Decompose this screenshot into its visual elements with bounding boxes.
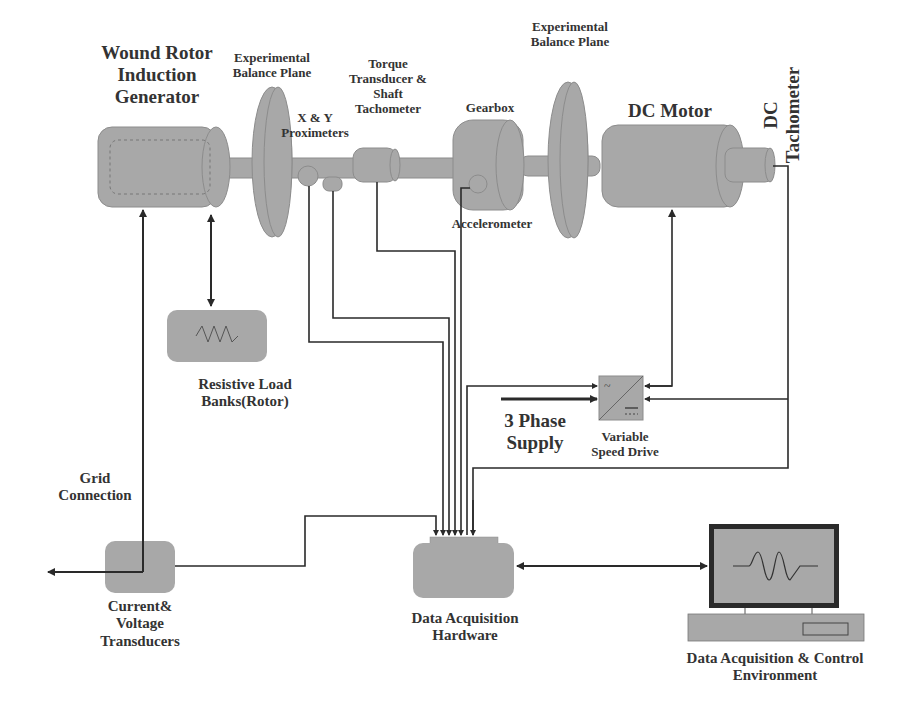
daq-to-vsd-wire: [467, 386, 597, 535]
proximeter-y-wire: [333, 191, 449, 535]
shaft-segment: [395, 158, 460, 178]
label-line: Variable: [580, 430, 670, 445]
balance-plane-2-label: Experimental Balance Plane: [520, 20, 620, 50]
daq-control-env-label: Data Acquisition & Control Environment: [660, 650, 890, 685]
label-line: Grid: [40, 470, 150, 487]
cv-to-daq-wire: [175, 516, 436, 566]
dc-tachometer-label: DC Tachometer: [760, 60, 804, 170]
label-line: Transducers: [85, 633, 195, 650]
label-line: Tachometer: [782, 60, 804, 170]
label-line: Shaft: [338, 87, 438, 102]
label-line: 3 Phase: [495, 410, 575, 432]
torque-transducer-label: Torque Transducer & Shaft Tachometer: [338, 57, 438, 117]
generator-label-line: Induction: [92, 64, 222, 86]
gearbox-icon: [453, 120, 524, 210]
torque-transducer-icon: [353, 148, 400, 182]
label-line: Proximeters: [270, 126, 360, 141]
label-line: Balance Plane: [222, 66, 322, 81]
balance-plane-2-icon: [548, 82, 588, 238]
generator-label: Wound Rotor Induction Generator: [92, 42, 222, 108]
current-voltage-transducers-box: [105, 541, 175, 593]
generator-label-line: Generator: [92, 86, 222, 108]
label-line: Current&: [85, 598, 195, 615]
label-line: Data Acquisition: [385, 610, 545, 627]
label-line: Hardware: [385, 627, 545, 644]
balance-plane-1-label: Experimental Balance Plane: [222, 51, 322, 81]
label-line: Experimental: [222, 51, 322, 66]
label-line: Voltage: [85, 615, 195, 632]
accelerometer-label: Accelerometer: [432, 217, 552, 232]
grid-connection-label: Grid Connection: [40, 470, 150, 505]
label-line: Banks(Rotor): [170, 393, 320, 410]
resistive-load-bank: [167, 310, 267, 362]
label-line: Data Acquisition & Control: [660, 650, 890, 667]
label-line: Balance Plane: [520, 35, 620, 50]
current-voltage-transducers-label: Current& Voltage Transducers: [85, 598, 195, 650]
resistive-load-label: Resistive Load Banks(Rotor): [170, 376, 320, 411]
proximeter-x-icon: [298, 166, 318, 186]
generator-icon: [98, 127, 230, 207]
balance-plane-1-icon: [252, 87, 292, 237]
label-line: Connection: [40, 487, 150, 504]
ac-dc-converter-icon: ~: [604, 379, 611, 393]
variable-speed-drive-label: Variable Speed Drive: [580, 430, 670, 460]
generator-label-line: Wound Rotor: [92, 42, 222, 64]
label-line: Tachometer: [338, 102, 438, 117]
label-line: Transducer &: [338, 72, 438, 87]
daq-hardware: [413, 537, 514, 598]
three-phase-supply-label: 3 Phase Supply: [495, 410, 575, 454]
daq-control-computer: [688, 524, 864, 641]
wiring: [48, 166, 788, 572]
proximeter-y-icon: [323, 177, 342, 191]
label-line: Torque: [338, 57, 438, 72]
dc-motor-icon: [602, 125, 744, 207]
variable-speed-drive: ~: [599, 376, 643, 420]
gearbox-label: Gearbox: [455, 101, 525, 116]
label-line: Environment: [660, 667, 890, 684]
label-line: Experimental: [520, 20, 620, 35]
dc-motor-label: DC Motor: [615, 100, 725, 122]
daq-hardware-label: Data Acquisition Hardware: [385, 610, 545, 645]
label-line: Speed Drive: [580, 445, 670, 460]
label-line: Supply: [495, 432, 575, 454]
label-line: DC: [760, 60, 782, 170]
proximeter-x-wire: [309, 186, 443, 535]
vsd-to-motor-wire: [645, 210, 672, 386]
label-line: Resistive Load: [170, 376, 320, 393]
accelerometer-wire: [461, 188, 470, 535]
